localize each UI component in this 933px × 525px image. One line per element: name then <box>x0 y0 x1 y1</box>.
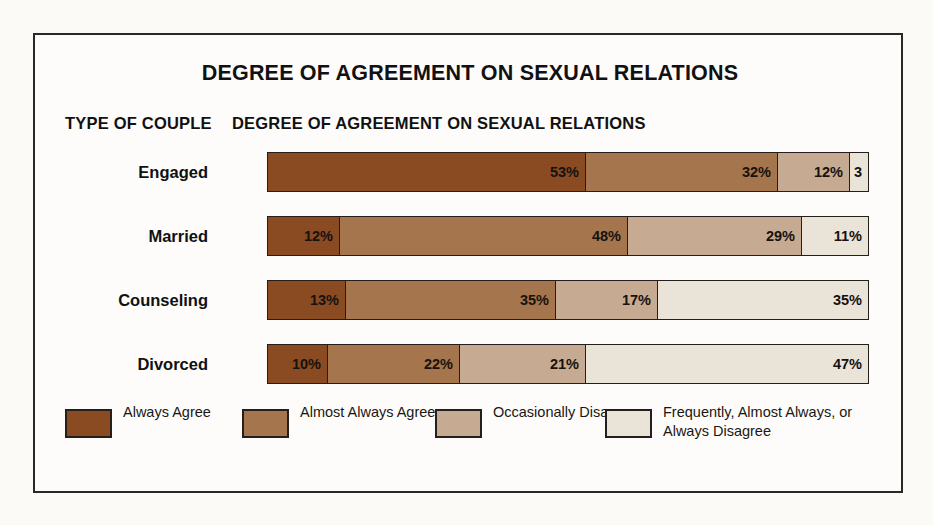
bar-segment: 35% <box>658 281 868 319</box>
chart-page: DEGREE OF AGREEMENT ON SEXUAL RELATIONS … <box>0 0 933 525</box>
chart-legend: Always AgreeAlmost Always AgreeOccasiona… <box>35 403 905 473</box>
bar-segment-label: 48% <box>592 217 621 255</box>
bar-segment: 47% <box>586 345 868 383</box>
row-label-counseling: Counseling <box>35 280 208 320</box>
bar-segment-label: 13% <box>310 281 339 319</box>
legend-item: Almost Always Agree <box>242 403 435 438</box>
bar-segment: 22% <box>328 345 460 383</box>
stacked-bar: 12%48%29%11% <box>267 216 869 256</box>
bar-segment: 48% <box>340 217 628 255</box>
legend-label: Always Agree <box>123 403 211 422</box>
bar-segment-label: 10% <box>292 345 321 383</box>
legend-item: Always Agree <box>65 403 211 438</box>
legend-swatch <box>242 409 289 438</box>
bar-segment: 13% <box>268 281 346 319</box>
bar-segment-label: 17% <box>622 281 651 319</box>
bar-segment: 11% <box>802 217 868 255</box>
bar-segment: 29% <box>628 217 802 255</box>
legend-label: Frequently, Almost Always, or Always Dis… <box>663 403 853 441</box>
bar-segment: 32% <box>586 153 778 191</box>
chart-row: Counseling13%35%17%35% <box>35 280 905 320</box>
bar-segment: 17% <box>556 281 658 319</box>
stacked-bar: 53%32%12%3 <box>267 152 869 192</box>
bar-segment: 21% <box>460 345 586 383</box>
bar-segment-label: 11% <box>834 217 862 255</box>
bar-segment: 10% <box>268 345 328 383</box>
legend-swatch <box>65 409 112 438</box>
legend-swatch <box>605 409 652 438</box>
row-label-divorced: Divorced <box>35 344 208 384</box>
chart-row: Engaged53%32%12%3 <box>35 152 905 192</box>
bar-segment-label: 32% <box>742 153 771 191</box>
axis-label-type-of-couple: TYPE OF COUPLE <box>65 114 212 133</box>
stacked-bar-plot: Engaged53%32%12%3Married12%48%29%11%Coun… <box>35 152 905 384</box>
chart-title: DEGREE OF AGREEMENT ON SEXUAL RELATIONS <box>35 61 905 86</box>
bar-segment: 35% <box>346 281 556 319</box>
bar-segment-label: 3 <box>854 153 862 191</box>
bar-segment-label: 35% <box>520 281 549 319</box>
chart-row: Married12%48%29%11% <box>35 216 905 256</box>
legend-item: Frequently, Almost Always, or Always Dis… <box>605 403 853 441</box>
chart-frame: DEGREE OF AGREEMENT ON SEXUAL RELATIONS … <box>33 33 903 493</box>
chart-row: Divorced10%22%21%47% <box>35 344 905 384</box>
bar-segment-label: 22% <box>424 345 453 383</box>
legend-swatch <box>435 409 482 438</box>
axis-label-degree-of-agreement: DEGREE OF AGREEMENT ON SEXUAL RELATIONS <box>232 114 646 133</box>
column-headers: TYPE OF COUPLE DEGREE OF AGREEMENT ON SE… <box>35 114 905 136</box>
bar-segment-label: 12% <box>814 153 843 191</box>
row-label-married: Married <box>35 216 208 256</box>
legend-label: Almost Always Agree <box>300 403 435 422</box>
bar-segment: 3 <box>850 153 868 191</box>
bar-segment: 12% <box>268 217 340 255</box>
bar-segment: 53% <box>268 153 586 191</box>
row-label-engaged: Engaged <box>35 152 208 192</box>
bar-segment-label: 29% <box>766 217 795 255</box>
bar-segment: 12% <box>778 153 850 191</box>
stacked-bar: 13%35%17%35% <box>267 280 869 320</box>
stacked-bar: 10%22%21%47% <box>267 344 869 384</box>
bar-segment-label: 47% <box>833 345 862 383</box>
bar-segment-label: 53% <box>550 153 579 191</box>
bar-segment-label: 35% <box>833 281 862 319</box>
bar-segment-label: 12% <box>304 217 333 255</box>
bar-segment-label: 21% <box>550 345 579 383</box>
